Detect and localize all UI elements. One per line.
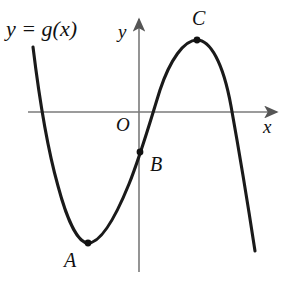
point-c-marker [194,37,201,44]
point-b-marker [137,149,144,156]
function-graph-svg [0,0,292,292]
graph-figure: y = g(x) y x O A B C [0,0,292,292]
point-a-marker [85,240,92,247]
point-b-label: B [150,154,162,174]
function-curve [33,40,255,251]
origin-label: O [116,115,130,134]
point-a-label: A [64,250,76,270]
x-axis-label: x [263,117,271,136]
point-c-label: C [192,8,205,28]
y-axis-label: y [118,22,126,41]
function-label: y = g(x) [6,18,77,40]
